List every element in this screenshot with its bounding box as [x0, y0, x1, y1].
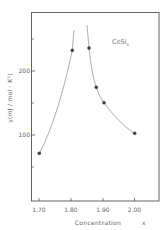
x-axis-tick-labels: 1.70 1.80 1.90 2.00: [32, 206, 141, 213]
chart: 1.70 1.80 1.90 2.00 Concentration x 200 …: [0, 0, 168, 230]
x-tick-label: 1.70: [32, 206, 46, 213]
y-axis-ticks: [32, 39, 36, 167]
x-tick-label: 2.00: [128, 206, 142, 213]
x-axis-variable: x: [142, 219, 146, 226]
x-tick-label: 1.90: [96, 206, 110, 213]
fit-curve-left: [39, 30, 74, 153]
data-points: [38, 47, 136, 155]
plot-frame: [32, 13, 160, 202]
compound-annotation: CeSix: [112, 38, 129, 47]
y-tick-label: 200: [19, 67, 31, 74]
y-tick-label: 100: [19, 131, 31, 138]
data-point: [95, 86, 98, 89]
x-axis-label: Concentration: [75, 219, 121, 226]
data-point: [71, 49, 74, 52]
data-point: [133, 132, 136, 135]
x-tick-label: 1.80: [64, 206, 78, 213]
data-point: [88, 47, 91, 50]
data-point: [103, 101, 106, 104]
data-point: [38, 152, 41, 155]
y-axis-label: γ(mJ / mol · K²): [6, 73, 14, 123]
